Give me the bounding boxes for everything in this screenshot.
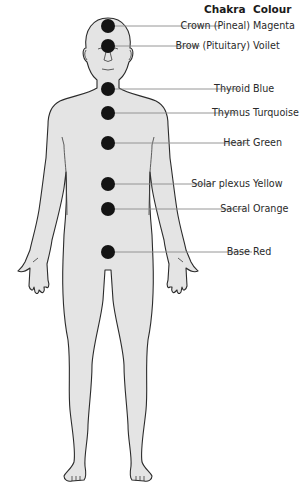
dot-crown [101,19,115,33]
dot-solar [101,177,115,191]
label-colour-solar-plexus: Yellow [253,178,283,190]
label-chakra-base: Base [227,246,250,258]
label-colour-thymus: Turquoise [253,107,299,119]
dot-heart [101,136,115,150]
dot-sacral [101,202,115,216]
dot-base [101,245,115,259]
label-chakra-sacral: Sacral [220,203,250,215]
header-colour: Colour [253,3,291,15]
label-colour-heart: Green [253,137,282,149]
label-chakra-thymus: Thymus [212,107,250,119]
label-chakra-crown: Crown (Pineal) [180,20,250,32]
dot-thyroid [101,82,115,96]
label-chakra-heart: Heart [223,137,250,149]
label-colour-sacral: Orange [253,203,288,215]
label-colour-thyroid: Blue [253,83,274,95]
label-colour-crown: Magenta [253,20,295,32]
header-chakra: Chakra [204,3,246,15]
label-chakra-brow: Brow (Pituitary) [175,40,250,52]
label-colour-base: Red [253,246,271,258]
label-colour-brow: Voilet [253,40,280,52]
dot-brow [101,39,115,53]
chakra-diagram: Chakra Colour Crown (Pineal) Magenta Bro… [0,0,305,491]
label-chakra-solar-plexus: Solar plexus [191,178,250,190]
label-chakra-thyroid: Thyroid [214,83,250,95]
dot-thymus [101,106,115,120]
